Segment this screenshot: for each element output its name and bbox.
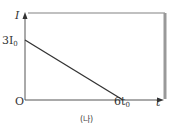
- y-axis-arrow-icon: [23, 12, 28, 19]
- x-tick-6t0: 6t0: [114, 96, 130, 109]
- x-axis-label: t: [156, 97, 160, 108]
- figure-caption: (나): [80, 113, 93, 124]
- y-tick-3I0: 3I0: [2, 35, 18, 48]
- y-axis-label: I: [15, 10, 19, 21]
- origin-label: O: [15, 96, 24, 107]
- data-line: [25, 40, 123, 100]
